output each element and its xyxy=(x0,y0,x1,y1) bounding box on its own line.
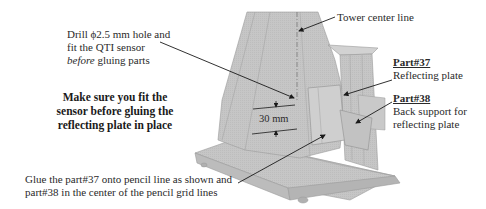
drill-note-line3: before gluing parts xyxy=(67,54,170,67)
base-foot xyxy=(298,197,308,203)
part37-title: Part#37 xyxy=(393,56,463,69)
drill-note-line2: fit the QTI sensor xyxy=(67,41,170,54)
part37-label: Part#37 Reflecting plate xyxy=(393,56,463,82)
warning-line3: reflecting plate in place xyxy=(55,118,175,132)
drill-note-line1: Drill ϕ2.5 mm hole and xyxy=(67,28,170,41)
part37-desc: Reflecting plate xyxy=(393,69,463,82)
tower-center-label: Tower center line xyxy=(337,11,414,24)
assembly-diagram: Drill ϕ2.5 mm hole and fit the QTI senso… xyxy=(0,0,486,209)
reflecting-plate-part37 xyxy=(308,85,345,145)
glue-line1: Glue the part#37 onto pencil line as sho… xyxy=(25,173,232,186)
part38-title: Part#38 xyxy=(393,92,467,105)
drill-note-emphasis: before xyxy=(67,54,95,66)
warning-line2: sensor before gluing the xyxy=(55,104,175,118)
warning-note: Make sure you fit the sensor before glui… xyxy=(55,90,175,132)
part38-desc-line2: reflecting plate xyxy=(393,118,467,131)
drill-note: Drill ϕ2.5 mm hole and fit the QTI senso… xyxy=(67,28,170,67)
part38-desc-line1: Back support for xyxy=(393,105,467,118)
base-foot xyxy=(201,163,207,167)
glue-line2: part#38 in the center of the pencil grid… xyxy=(25,186,232,199)
warning-line1: Make sure you fit the xyxy=(55,90,175,104)
glue-note: Glue the part#37 onto pencil line as sho… xyxy=(25,173,232,199)
part38-label: Part#38 Back support for reflecting plat… xyxy=(393,92,467,131)
dimension-label: 30 mm xyxy=(259,112,288,125)
drill-note-line3-rest: gluing parts xyxy=(95,54,150,66)
